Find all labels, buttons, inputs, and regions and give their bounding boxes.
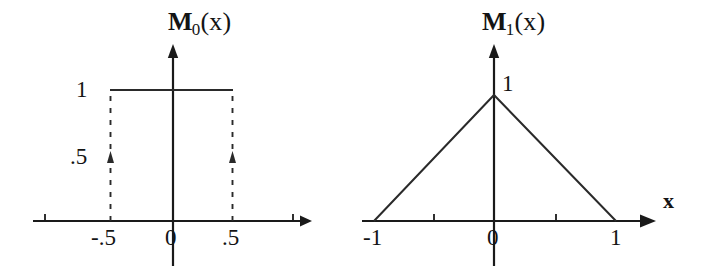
m1-ylabel-one: 1 (502, 72, 514, 95)
m1-title-close-paren: ) (537, 7, 546, 36)
m1-title: M1(x) (482, 9, 545, 38)
m0-xlabel-zero: 0 (165, 226, 177, 249)
m0-ylabel-one: 1 (76, 78, 88, 101)
chart-panel-m0: M0(x) 1 .5 -.5 0 .5 (0, 0, 350, 266)
m0-xlabel-half: .5 (222, 226, 239, 249)
m1-title-function: M (482, 7, 507, 36)
m1-title-open-paren: ( (514, 7, 523, 36)
m0-dashed-left (107, 91, 114, 221)
m0-title: M0(x) (168, 9, 231, 38)
m0-title-close-paren: ) (223, 7, 232, 36)
m0-title-function: M (168, 7, 193, 36)
m1-title-variable: x (523, 7, 536, 36)
m1-xlabel-neg-one: -1 (363, 226, 382, 249)
figure-canvas: M0(x) 1 .5 -.5 0 .5 (0, 0, 701, 266)
m1-xlabel-zero: 0 (487, 226, 499, 249)
chart-panel-m1: M1(x) 1 -1 0 1 x (350, 0, 701, 266)
m1-xlabel-one: 1 (610, 226, 622, 249)
m0-ylabel-half: .5 (70, 145, 87, 168)
m1-x-axis-label: x (663, 190, 674, 212)
m0-xlabel-neg-half: -.5 (91, 226, 116, 249)
m1-plot-graphics (350, 0, 701, 266)
m0-dashed-right (229, 91, 236, 221)
m0-title-open-paren: ( (200, 7, 209, 36)
m0-title-variable: x (209, 7, 222, 36)
